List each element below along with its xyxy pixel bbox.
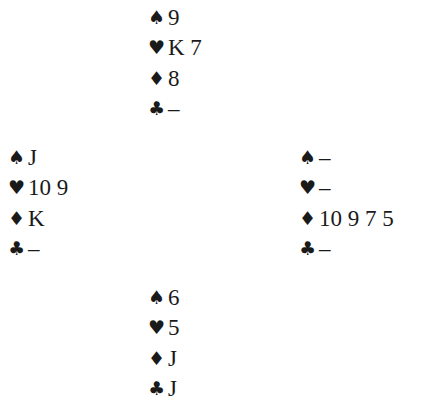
heart-icon: ♥ — [148, 38, 168, 57]
west-spades-cards: J — [28, 146, 37, 169]
north-clubs-row: ♣ – — [148, 94, 202, 125]
west-diamonds-cards: K — [28, 207, 45, 230]
east-diamonds-cards: 10 9 7 5 — [319, 207, 394, 230]
north-hearts-row: ♥ K 7 — [148, 33, 202, 64]
east-spades-cards: – — [319, 146, 331, 169]
heart-icon: ♥ — [148, 318, 168, 337]
east-clubs-row: ♣ – — [299, 234, 394, 265]
east-clubs-cards: – — [319, 237, 331, 260]
east-hearts-cards: – — [319, 176, 331, 199]
west-diamonds-row: ♦ K — [8, 203, 68, 234]
north-spades-row: ♠ 9 — [148, 2, 202, 33]
spade-icon: ♠ — [8, 148, 28, 167]
south-diamonds-cards: J — [168, 347, 177, 370]
spade-icon: ♠ — [148, 8, 168, 27]
spade-icon: ♠ — [299, 148, 319, 167]
east-diamonds-row: ♦ 10 9 7 5 — [299, 203, 394, 234]
south-hand: ♠ 6 ♥ 5 ♦ J ♣ J — [148, 282, 180, 404]
west-spades-row: ♠ J — [8, 142, 68, 173]
north-hearts-cards: K 7 — [168, 36, 202, 59]
south-hearts-cards: 5 — [168, 316, 180, 339]
west-clubs-cards: – — [28, 237, 40, 260]
north-diamonds-row: ♦ 8 — [148, 63, 202, 94]
club-icon: ♣ — [299, 239, 319, 258]
west-hearts-cards: 10 9 — [28, 176, 68, 199]
south-clubs-cards: J — [168, 377, 177, 400]
diamond-icon: ♦ — [299, 209, 319, 228]
north-diamonds-cards: 8 — [168, 67, 180, 90]
north-hand: ♠ 9 ♥ K 7 ♦ 8 ♣ – — [148, 2, 202, 124]
east-hand: ♠ – ♥ – ♦ 10 9 7 5 ♣ – — [299, 142, 394, 264]
south-hearts-row: ♥ 5 — [148, 313, 180, 344]
south-clubs-row: ♣ J — [148, 374, 180, 405]
south-spades-cards: 6 — [168, 286, 180, 309]
west-hand: ♠ J ♥ 10 9 ♦ K ♣ – — [8, 142, 68, 264]
heart-icon: ♥ — [8, 178, 28, 197]
north-spades-cards: 9 — [168, 6, 180, 29]
club-icon: ♣ — [148, 99, 168, 118]
club-icon: ♣ — [8, 239, 28, 258]
diamond-icon: ♦ — [8, 209, 28, 228]
south-spades-row: ♠ 6 — [148, 282, 180, 313]
heart-icon: ♥ — [299, 178, 319, 197]
west-hearts-row: ♥ 10 9 — [8, 173, 68, 204]
west-clubs-row: ♣ – — [8, 234, 68, 265]
east-hearts-row: ♥ – — [299, 173, 394, 204]
north-clubs-cards: – — [168, 97, 180, 120]
diamond-icon: ♦ — [148, 349, 168, 368]
diamond-icon: ♦ — [148, 69, 168, 88]
spade-icon: ♠ — [148, 288, 168, 307]
club-icon: ♣ — [148, 379, 168, 398]
south-diamonds-row: ♦ J — [148, 343, 180, 374]
east-spades-row: ♠ – — [299, 142, 394, 173]
